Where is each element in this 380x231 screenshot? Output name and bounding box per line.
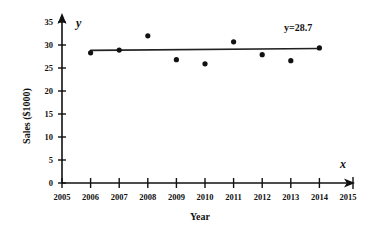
y-tick-label-15: 15 xyxy=(45,109,54,119)
x-tick-label-2005: 2005 xyxy=(54,192,71,202)
data-point-2014 xyxy=(317,45,322,50)
x-tick-label-2006: 2006 xyxy=(82,192,99,202)
y-tick-label-25: 25 xyxy=(45,63,54,73)
y-tick-label-0: 0 xyxy=(49,178,53,188)
data-point-2006 xyxy=(88,50,93,55)
x-tick-label-2015: 2015 xyxy=(340,192,357,202)
data-point-2007 xyxy=(117,48,122,53)
x-tick-label-2012: 2012 xyxy=(254,192,271,202)
y-axis-tick-labels: 0 5 10 15 20 25 30 35 xyxy=(45,17,54,188)
data-point-2013 xyxy=(288,58,293,63)
x-tick-label-2010: 2010 xyxy=(197,192,214,202)
y-axis-letter: y xyxy=(74,16,82,30)
chart-canvas: 0 5 10 15 20 25 30 35 2005 2006 2007 xyxy=(0,0,380,231)
y-tick-label-5: 5 xyxy=(49,155,53,165)
data-point-2008 xyxy=(145,33,150,38)
y-tick-label-30: 30 xyxy=(45,40,54,50)
x-axis-tick-labels: 2005 2006 2007 2008 2009 2010 2011 2012 … xyxy=(54,192,357,202)
y-tick-label-35: 35 xyxy=(45,17,54,27)
x-axis xyxy=(62,177,355,189)
x-axis-letter: x xyxy=(339,157,346,171)
trend-line xyxy=(91,49,320,51)
y-tick-label-10: 10 xyxy=(45,132,54,142)
data-point-2010 xyxy=(202,61,207,66)
x-axis-title: Year xyxy=(190,211,211,222)
x-tick-label-2008: 2008 xyxy=(139,192,156,202)
y-axis-title: Sales ($1000) xyxy=(21,88,33,144)
x-tick-label-2013: 2013 xyxy=(282,192,299,202)
data-point-2009 xyxy=(174,57,179,62)
x-tick-label-2011: 2011 xyxy=(225,192,242,202)
data-point-2012 xyxy=(260,52,265,57)
trendline-equation-label: y=28.7 xyxy=(284,22,312,33)
x-tick-label-2007: 2007 xyxy=(111,192,129,202)
x-tick-label-2009: 2009 xyxy=(168,192,185,202)
y-tick-label-20: 20 xyxy=(45,86,54,96)
x-tick-label-2014: 2014 xyxy=(311,192,329,202)
scatter-chart: 0 5 10 15 20 25 30 35 2005 2006 2007 xyxy=(0,0,380,231)
y-axis xyxy=(58,13,67,183)
data-point-2011 xyxy=(231,39,236,44)
